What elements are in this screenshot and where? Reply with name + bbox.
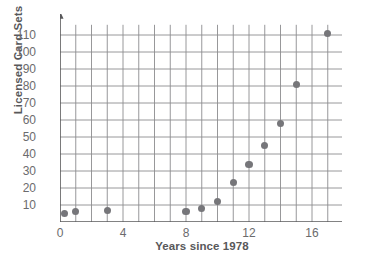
y-tick-label: 110 — [2, 29, 36, 41]
y-tick-label: 20 — [2, 182, 36, 194]
data-point — [293, 81, 300, 88]
y-tick-label: 10 — [2, 199, 36, 211]
data-point — [277, 120, 284, 127]
y-tick-label: 70 — [2, 97, 36, 109]
y-tick-label: 80 — [2, 80, 36, 92]
x-tick-label: 16 — [298, 227, 326, 239]
data-point — [182, 208, 189, 215]
y-tick-label: 90 — [2, 63, 36, 75]
data-point — [104, 207, 111, 214]
x-tick-label: 12 — [235, 227, 263, 239]
y-tick-label: 100 — [2, 46, 36, 58]
y-tick-label: 50 — [2, 131, 36, 143]
x-tick-label: 8 — [172, 227, 200, 239]
data-point — [245, 161, 252, 168]
y-tick-label: 30 — [2, 165, 36, 177]
y-tick-label: 60 — [2, 114, 36, 126]
x-tick-label: 4 — [109, 227, 137, 239]
x-tick-label: 0 — [46, 227, 74, 239]
x-axis-title: Years since 1978 — [60, 240, 344, 252]
scatter-plot-figure: Licensed Card Sets Years since 1978 1101… — [0, 0, 374, 268]
grid-and-axes — [60, 14, 342, 222]
plot-area — [60, 14, 342, 222]
y-tick-label: 40 — [2, 148, 36, 160]
